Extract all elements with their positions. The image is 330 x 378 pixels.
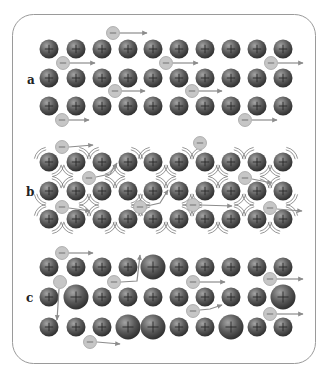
cation bbox=[196, 258, 215, 277]
large-cation bbox=[64, 285, 89, 310]
cation bbox=[196, 69, 215, 88]
cation bbox=[144, 40, 163, 59]
cation bbox=[119, 69, 138, 88]
metal-lattice-diagram: a b c bbox=[0, 0, 330, 378]
cation bbox=[93, 318, 112, 337]
cation bbox=[144, 288, 163, 307]
cation bbox=[222, 69, 241, 88]
cation bbox=[248, 69, 267, 88]
cation bbox=[40, 258, 59, 277]
cation bbox=[119, 288, 138, 307]
cation bbox=[93, 258, 112, 277]
cation bbox=[67, 318, 86, 337]
cation bbox=[119, 258, 138, 277]
cation bbox=[274, 258, 293, 277]
cation bbox=[274, 97, 293, 116]
cation bbox=[274, 69, 293, 88]
large-cation bbox=[271, 285, 296, 310]
cation bbox=[196, 97, 215, 116]
cation bbox=[93, 69, 112, 88]
cation bbox=[40, 288, 59, 307]
cation bbox=[67, 69, 86, 88]
cation bbox=[93, 288, 112, 307]
cation bbox=[222, 40, 241, 59]
large-cation bbox=[141, 255, 166, 280]
cation bbox=[248, 258, 267, 277]
large-cation bbox=[219, 315, 244, 340]
cation bbox=[40, 40, 59, 59]
cation bbox=[144, 69, 163, 88]
cation bbox=[93, 40, 112, 59]
cation bbox=[67, 258, 86, 277]
cation bbox=[40, 318, 59, 337]
cation bbox=[196, 318, 215, 337]
large-cation bbox=[141, 315, 166, 340]
cation bbox=[274, 40, 293, 59]
cation bbox=[248, 40, 267, 59]
cation bbox=[222, 97, 241, 116]
cation bbox=[170, 318, 189, 337]
cation bbox=[248, 97, 267, 116]
cation bbox=[222, 288, 241, 307]
electron-sphere bbox=[54, 276, 67, 289]
cation bbox=[144, 97, 163, 116]
cation bbox=[119, 40, 138, 59]
cation bbox=[40, 69, 59, 88]
cation bbox=[170, 97, 189, 116]
cation bbox=[67, 97, 86, 116]
cation bbox=[67, 40, 86, 59]
large-cation bbox=[116, 315, 141, 340]
cation bbox=[170, 258, 189, 277]
cation bbox=[93, 97, 112, 116]
cation bbox=[170, 69, 189, 88]
cation bbox=[196, 288, 215, 307]
cation bbox=[170, 40, 189, 59]
cation bbox=[222, 258, 241, 277]
panel-label-a: a bbox=[27, 73, 35, 87]
cation bbox=[274, 318, 293, 337]
cation bbox=[248, 318, 267, 337]
electron bbox=[194, 137, 207, 150]
panel-label-b: b bbox=[26, 185, 34, 199]
cation bbox=[196, 40, 215, 59]
cation bbox=[119, 97, 138, 116]
cation bbox=[170, 288, 189, 307]
cation bbox=[248, 288, 267, 307]
panel-label-c: c bbox=[26, 291, 33, 305]
cation bbox=[40, 97, 59, 116]
